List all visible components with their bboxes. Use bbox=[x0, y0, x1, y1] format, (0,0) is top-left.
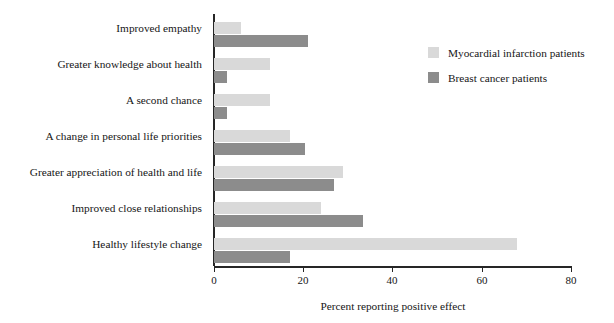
x-tick-40 bbox=[392, 266, 393, 272]
category-label-close-relationships: Improved close relationships bbox=[71, 202, 202, 215]
legend-item-breast-cancer: Breast cancer patients bbox=[428, 65, 614, 90]
category-label-greater-appreciation: Greater appreciation of health and life bbox=[30, 166, 202, 179]
x-tick-20 bbox=[303, 266, 304, 272]
bar bbox=[214, 166, 343, 178]
bar bbox=[214, 238, 517, 250]
category-label-greater-knowledge: Greater knowledge about health bbox=[57, 58, 202, 71]
x-tick-label-80: 80 bbox=[566, 274, 577, 287]
category-label-change-in-priorities: A change in personal life priorities bbox=[45, 130, 202, 143]
bar bbox=[214, 143, 305, 155]
x-tick-0 bbox=[214, 266, 215, 272]
legend-label-breast-cancer: Breast cancer patients bbox=[448, 72, 547, 84]
category-label-improved-empathy: Improved empathy bbox=[116, 22, 202, 35]
legend-swatch-icon-light bbox=[428, 47, 439, 58]
bar bbox=[214, 22, 241, 34]
legend-swatch-icon-dark bbox=[428, 72, 439, 83]
bar bbox=[214, 251, 290, 263]
category-label-healthy-lifestyle: Healthy lifestyle change bbox=[92, 238, 202, 251]
x-tick-80 bbox=[571, 266, 572, 272]
x-tick-60 bbox=[482, 266, 483, 272]
bar bbox=[214, 107, 227, 119]
x-tick-label-0: 0 bbox=[211, 274, 217, 287]
bar bbox=[214, 94, 270, 106]
bar bbox=[214, 71, 227, 83]
legend-item-myocardial-infarction: Myocardial infarction patients bbox=[428, 40, 614, 65]
x-tick-label-60: 60 bbox=[477, 274, 488, 287]
legend: Myocardial infarction patients Breast ca… bbox=[428, 40, 614, 90]
category-axis-labels: Improved empathy Greater knowledge about… bbox=[0, 14, 208, 266]
bar bbox=[214, 215, 363, 227]
x-tick-label-20: 20 bbox=[298, 274, 309, 287]
legend-label-myocardial-infarction: Myocardial infarction patients bbox=[448, 47, 585, 59]
x-axis-title: Percent reporting positive effect bbox=[214, 300, 572, 312]
bar bbox=[214, 202, 321, 214]
bar bbox=[214, 35, 308, 47]
category-label-second-chance: A second chance bbox=[126, 94, 202, 107]
bar bbox=[214, 130, 290, 142]
bar bbox=[214, 58, 270, 70]
bar bbox=[214, 179, 334, 191]
x-tick-label-40: 40 bbox=[387, 274, 398, 287]
bar-chart: Improved empathy Greater knowledge about… bbox=[0, 0, 614, 323]
